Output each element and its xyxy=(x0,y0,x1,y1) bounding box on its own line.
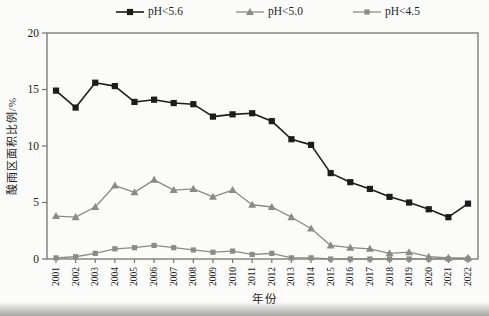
series-2-point-2020 xyxy=(426,256,431,261)
series-0-point-2017 xyxy=(367,186,373,192)
series-line-0 xyxy=(56,83,468,217)
series-0-point-2014 xyxy=(308,142,314,148)
series-1-point-2011 xyxy=(248,201,256,208)
x-tick-label: 2003 xyxy=(90,267,100,286)
x-tick-label: 2016 xyxy=(345,267,355,286)
series-0-point-2010 xyxy=(229,111,235,117)
series-0-point-2001 xyxy=(53,88,59,94)
series-0-point-2009 xyxy=(210,114,216,120)
x-axis-title: 年份 xyxy=(215,290,315,306)
x-tick-label: 2004 xyxy=(110,267,120,286)
series-1-point-2014 xyxy=(307,224,315,231)
series-1-point-2004 xyxy=(111,181,119,188)
series-1-point-2013 xyxy=(287,213,295,220)
series-2-point-2018 xyxy=(387,256,392,261)
x-tick-label: 2015 xyxy=(326,267,336,286)
acid-rain-line-chart: pH<5.6 pH<5.0 pH<4.5 0510152020012002200… xyxy=(0,0,489,316)
series-1-point-2019 xyxy=(405,248,413,255)
x-tick-label: 2009 xyxy=(208,267,218,286)
y-axis-title: 酸雨区面积比例/% xyxy=(3,76,19,216)
series-0-point-2008 xyxy=(190,101,196,107)
series-2-point-2003 xyxy=(93,251,98,256)
plot-area: 0510152020012002200320042005200620072008… xyxy=(0,0,489,296)
series-0-point-2022 xyxy=(465,201,471,207)
series-0-point-2020 xyxy=(426,206,432,212)
series-0-point-2007 xyxy=(171,100,177,106)
x-tick-label: 2013 xyxy=(286,267,296,286)
series-2-point-2004 xyxy=(112,246,117,251)
series-0-point-2016 xyxy=(347,179,353,185)
series-1-point-2010 xyxy=(229,186,237,193)
x-tick-label: 2011 xyxy=(247,267,257,286)
series-2-point-2021 xyxy=(446,256,451,261)
y-tick-label: 20 xyxy=(28,27,40,39)
y-tick-label: 10 xyxy=(28,140,40,152)
series-2-point-2006 xyxy=(151,243,156,248)
series-2-point-2015 xyxy=(328,256,333,261)
series-1-point-2008 xyxy=(189,185,197,192)
series-1-point-2001 xyxy=(52,212,60,219)
x-tick-label: 2007 xyxy=(169,267,179,286)
series-0-point-2005 xyxy=(131,99,137,105)
y-tick-label: 5 xyxy=(33,196,39,208)
series-2-point-2008 xyxy=(191,247,196,252)
x-tick-label: 2001 xyxy=(51,267,61,286)
x-tick-label: 2005 xyxy=(129,267,139,286)
series-line-1 xyxy=(56,180,468,258)
x-tick-label: 2017 xyxy=(365,267,375,286)
x-tick-label: 2022 xyxy=(463,267,473,286)
series-2-point-2019 xyxy=(407,256,412,261)
x-tick-label: 2014 xyxy=(306,267,316,286)
series-2-point-2010 xyxy=(230,248,235,253)
series-2-point-2017 xyxy=(367,256,372,261)
x-tick-label: 2012 xyxy=(267,267,277,286)
series-0-point-2012 xyxy=(269,118,275,124)
x-tick-label: 2019 xyxy=(404,267,414,286)
series-2-point-2016 xyxy=(348,256,353,261)
series-2-point-2012 xyxy=(269,251,274,256)
series-0-point-2021 xyxy=(445,214,451,220)
x-tick-label: 2020 xyxy=(424,267,434,286)
series-0-point-2018 xyxy=(386,194,392,200)
series-0-point-2003 xyxy=(92,80,98,86)
x-tick-label: 2008 xyxy=(188,267,198,286)
series-2-point-2001 xyxy=(53,255,58,260)
series-0-point-2011 xyxy=(249,110,255,116)
series-2-point-2009 xyxy=(210,250,215,255)
x-tick-label: 2018 xyxy=(385,267,395,286)
x-tick-label: 2006 xyxy=(149,267,159,286)
x-tick-label: 2002 xyxy=(71,267,81,286)
series-2-point-2002 xyxy=(73,254,78,259)
series-0-point-2006 xyxy=(151,97,157,103)
series-0-point-2004 xyxy=(112,83,118,89)
series-0-point-2019 xyxy=(406,199,412,205)
series-2-point-2013 xyxy=(289,255,294,260)
series-2-point-2014 xyxy=(308,255,313,260)
series-0-point-2015 xyxy=(328,170,334,176)
series-2-point-2011 xyxy=(250,252,255,257)
series-0-point-2002 xyxy=(73,104,79,110)
x-tick-label: 2021 xyxy=(443,267,453,286)
y-tick-label: 15 xyxy=(28,83,40,95)
series-2-point-2022 xyxy=(465,256,470,261)
x-tick-label: 2010 xyxy=(228,267,238,286)
series-1-point-2006 xyxy=(150,176,158,183)
y-tick-label: 0 xyxy=(33,253,39,265)
series-0-point-2013 xyxy=(288,136,294,142)
series-2-point-2005 xyxy=(132,245,137,250)
series-2-point-2007 xyxy=(171,245,176,250)
plot-border xyxy=(47,33,478,259)
